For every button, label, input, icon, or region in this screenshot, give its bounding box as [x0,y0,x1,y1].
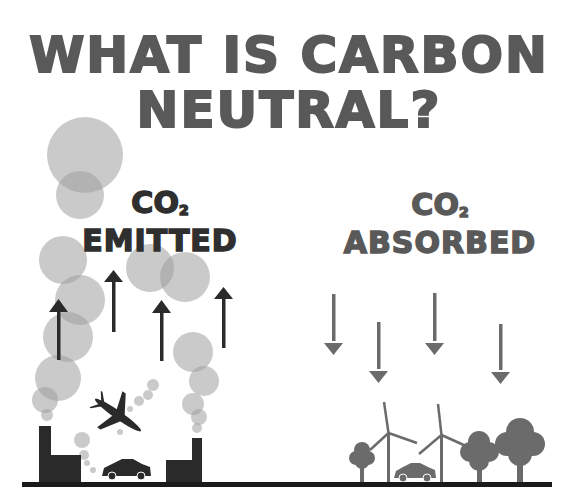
emitted-caption: EMITTED [55,226,265,256]
co2-subscript: 2 [179,202,189,218]
tree-large [495,418,545,483]
co2-text: CO [411,187,459,222]
car-icon-right [394,463,436,482]
tree-medium [460,431,499,483]
factory-left [39,426,81,483]
down-arrows [324,293,510,384]
factory-right [166,438,202,483]
co2-emitted-label: CO2 EMITTED [55,188,265,256]
co2-subscript: 2 [459,204,469,220]
car-icon-left [102,459,151,480]
ground-line [22,482,552,487]
co2-absorbed-label: CO2 ABSORBED [330,190,550,258]
absorbed-caption: ABSORBED [330,228,550,258]
co2-text: CO [131,185,179,220]
airplane-icon [82,381,153,449]
